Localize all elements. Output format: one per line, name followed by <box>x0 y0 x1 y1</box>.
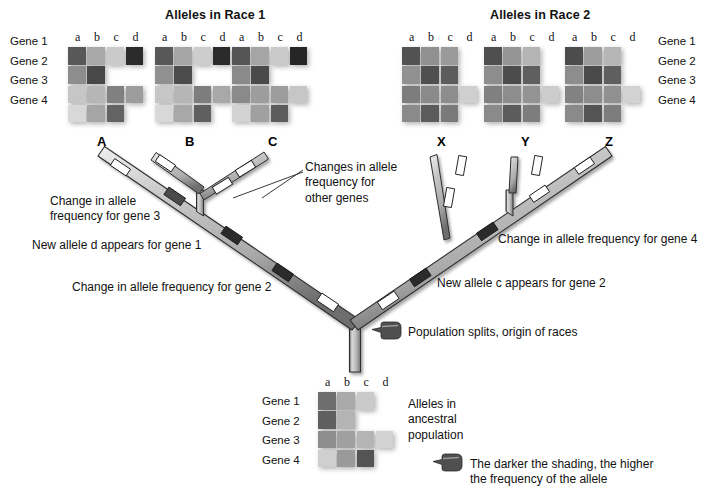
race2-pop-z-cell-g4-b <box>584 105 602 123</box>
race1-pop-c-cell-g3-d <box>290 86 308 104</box>
ancestral-cell-g4-c <box>357 450 375 468</box>
race1-pop-c-cell-g1-b <box>251 47 269 65</box>
ancestral-col-header-b: b <box>337 375 356 390</box>
race2-pop-x-cell-g4-a <box>402 105 420 123</box>
race2-pop-x-cell-g4-c <box>441 105 459 123</box>
gene-label-1: Gene 1 <box>10 32 48 52</box>
race1-pop-b-column-headers: abcd <box>155 30 232 45</box>
tick-light-a1 <box>110 159 130 176</box>
race2-pop-z-cell-g2-a <box>565 66 583 84</box>
diagram-canvas: Alleles in Race 1 Alleles in Race 2 Gene… <box>0 0 710 503</box>
race2-pop-y-col-header-b: b <box>503 30 522 45</box>
race1-pop-b-cell-g1-c <box>194 47 212 65</box>
race2-pop-z-cell-g4-d <box>623 105 641 123</box>
tick-light-b1 <box>155 155 175 172</box>
race2-pop-y-cell-g1-a <box>484 47 502 65</box>
race1-pop-c-col-header-d: d <box>290 30 309 45</box>
race1-pop-b-cell-g2-b <box>174 66 192 84</box>
ancestral-cell-g1-c <box>357 392 375 410</box>
race2-pop-x-col-header-a: a <box>402 30 421 45</box>
race2-pop-z-cell-g1-a <box>565 47 583 65</box>
race1-pop-c-cell-g1-a <box>232 47 250 65</box>
tick-light-right-base <box>377 291 399 310</box>
tick-light-x2 <box>443 187 454 207</box>
race2-pop-z-cell-g3-a <box>565 86 583 104</box>
race1-pop-a-col-header-d: d <box>126 30 145 45</box>
race1-pop-a-cell-g4-a <box>68 105 86 123</box>
race2-pop-z-cell-g3-b <box>584 86 602 104</box>
race2-pop-x-cell-g1-d <box>460 47 478 65</box>
race1-pop-b-col-header-d: d <box>213 30 232 45</box>
race1-pop-a-cell-g2-a <box>68 66 86 84</box>
race2-pop-z-cell-g3-d <box>623 86 641 104</box>
race2-pop-y-cell-g4-d <box>542 105 560 123</box>
race2-pop-y-cell-g3-b <box>503 86 521 104</box>
race2-pop-y-cell-g4-a <box>484 105 502 123</box>
annotation-population-splits: Population splits, origin of races <box>408 325 577 340</box>
race1-pop-b-cell-g4-c <box>194 105 212 123</box>
race2-pop-x-cell-g4-d <box>460 105 478 123</box>
gene-label-4: Gene 4 <box>658 91 696 111</box>
ancestral-cell-g2-c <box>357 411 375 429</box>
race1-pop-c-col-header-a: a <box>232 30 251 45</box>
tick-light-node-y <box>529 185 549 202</box>
race2-pop-z-cell-g3-c <box>604 86 622 104</box>
ancestral-gene-label-4: Gene 4 <box>262 451 300 471</box>
ancestral-cell-g2-a <box>318 411 336 429</box>
annotation-gene2-change: Change in allele frequency for gene 2 <box>72 280 271 295</box>
ancestral-col-header-c: c <box>357 375 376 390</box>
ancestral-grid <box>318 392 393 467</box>
race2-pop-x-cell-g3-a <box>402 86 420 104</box>
race2-pop-x-col-header-b: b <box>421 30 440 45</box>
race1-pop-a-cell-g3-b <box>87 86 105 104</box>
race2-pop-y-grid <box>484 47 559 122</box>
race2-pop-y-cell-g3-a <box>484 86 502 104</box>
race1-pop-a-col-header-a: a <box>68 30 87 45</box>
race2-pop-x-col-header-c: c <box>441 30 460 45</box>
gene-labels-right: Gene 1Gene 2Gene 3Gene 4 <box>658 32 696 110</box>
race2-pop-y-cell-g1-d <box>542 47 560 65</box>
gene-labels-left: Gene 1Gene 2Gene 3Gene 4 <box>10 32 48 110</box>
race2-pop-x-grid <box>402 47 477 122</box>
gene-label-4: Gene 4 <box>10 91 48 111</box>
ancestral-cell-g3-d <box>376 431 394 449</box>
race1-pop-b-cell-g3-d <box>213 86 231 104</box>
race1-pop-b-col-header-b: b <box>174 30 193 45</box>
race2-pop-z-cell-g1-b <box>584 47 602 65</box>
race2-pop-y-cell-g4-b <box>503 105 521 123</box>
race1-pop-a-cell-g1-d <box>126 47 144 65</box>
tip-label-z: Z <box>605 134 613 149</box>
race2-pop-x-column-headers: abcd <box>402 30 479 45</box>
annotation-other-genes: Changes in allele frequency for other ge… <box>305 160 397 206</box>
race1-pop-c-col-header-b: b <box>251 30 270 45</box>
ancestral-cell-g1-d <box>376 392 394 410</box>
annotation-gene4-change: Change in allele frequency for gene 4 <box>498 232 697 247</box>
tick-dark-gene1 <box>221 226 243 245</box>
race2-pop-z-cell-g2-c <box>604 66 622 84</box>
race2-pop-y-cell-g1-b <box>503 47 521 65</box>
race1-pop-b-cell-g3-b <box>174 86 192 104</box>
race2-pop-z-grid <box>565 47 640 122</box>
race1-pop-c-cell-g3-a <box>232 86 250 104</box>
race1-pop-a-cell-g3-a <box>68 86 86 104</box>
race2-pop-x-cell-g3-d <box>460 86 478 104</box>
race2-pop-x-cell-g3-b <box>421 86 439 104</box>
race2-pop-y-column-headers: abcd <box>484 30 561 45</box>
race1-pop-c-cell-g2-d <box>290 66 308 84</box>
race2-pop-y-cell-g2-b <box>503 66 521 84</box>
ancestral-cell-g1-a <box>318 392 336 410</box>
annotation-gene1-new-d: New allele d appears for gene 1 <box>32 238 201 253</box>
ancestral-cell-g4-a <box>318 450 336 468</box>
race2-pop-z-cell-g4-c <box>604 105 622 123</box>
race1-pop-a-cell-g2-c <box>107 66 125 84</box>
tick-dark-gene2c <box>409 268 431 287</box>
ancestral-cell-g2-d <box>376 411 394 429</box>
race1-pop-b-col-header-a: a <box>155 30 174 45</box>
race2-pop-x-cell-g1-c <box>441 47 459 65</box>
race1-pop-a-cell-g4-b <box>87 105 105 123</box>
race2-pop-x-cell-g2-d <box>460 66 478 84</box>
race1-pop-a-col-header-b: b <box>87 30 106 45</box>
pointing-hand-icon-legend <box>432 452 464 478</box>
tip-label-a: A <box>97 134 106 149</box>
race2-pop-x-cell-g2-c <box>441 66 459 84</box>
